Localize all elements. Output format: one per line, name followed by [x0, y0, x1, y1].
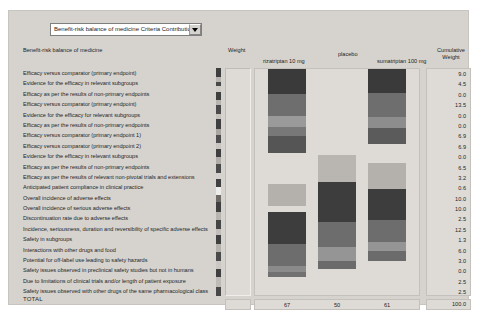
- criteria-row: Evidence for the efficacy in relevant su…: [23, 78, 213, 88]
- cumulative-weight-cell: 4.5: [427, 79, 470, 89]
- bar-segment: [268, 136, 306, 153]
- criteria-label-list: Efficacy versus comparator (primary endp…: [23, 68, 213, 297]
- weight-strip-segment: [216, 277, 221, 287]
- bar-segment: [318, 69, 356, 155]
- bar-segment: [268, 212, 306, 244]
- cumulative-weight-cell: 0.0: [427, 152, 470, 162]
- weight-strip-segment: [216, 195, 221, 202]
- cumulative-weight-cell: 6.9: [427, 142, 470, 152]
- weight-strip-segment: [216, 202, 221, 212]
- criteria-row: Efficacy versus comparator (primary endp…: [23, 99, 213, 109]
- criteria-contribution-chart: [254, 68, 420, 296]
- criteria-row: Due to limitations of clinical trials an…: [23, 276, 213, 286]
- criteria-row: Efficacy versus comparator (primary endp…: [23, 68, 213, 78]
- cumulative-weight-header-line2: Weight: [429, 54, 473, 61]
- weight-strip-segment: [216, 92, 221, 101]
- weight-strip-segment: [216, 157, 221, 164]
- weight-strip-segment: [216, 212, 221, 220]
- cumulative-weight-cell: 0.0: [427, 111, 470, 121]
- weight-strip-segment: [216, 252, 221, 261]
- bar3-header: sumatriptan 100 mg: [377, 58, 426, 64]
- criteria-row: Efficacy as per the results of non-prima…: [23, 89, 213, 99]
- bar3-total: 61: [372, 301, 402, 309]
- stacked-bar-placebo[interactable]: [318, 69, 356, 269]
- cumulative-weight-cell: 10.0: [427, 204, 470, 214]
- page-title: Benefit-risk balance of medicine: [23, 47, 102, 53]
- weight-strip-segment: [216, 287, 221, 296]
- criteria-row: Efficacy as per the results of non-prima…: [23, 162, 213, 172]
- weight-strip-segment: [216, 269, 221, 278]
- weight-strip-segment: [216, 187, 221, 195]
- criteria-row: Efficacy versus comparator (primary endp…: [23, 130, 213, 140]
- bar-segment: [268, 127, 306, 136]
- stacked-bar-rizatriptan[interactable]: [268, 69, 306, 277]
- cumulative-weight-header-line1: Cumulative: [437, 47, 465, 53]
- cumulative-weight-cell: 3.0: [427, 256, 470, 266]
- bar-segment: [268, 272, 306, 277]
- cumulative-weight-cell: 0.0: [427, 266, 470, 276]
- weight-strip-segment: [216, 235, 221, 244]
- cumulative-weight-cell: 0.0: [427, 121, 470, 131]
- cumulative-weight-cell: 9.0: [427, 69, 470, 79]
- cumulative-weight-header: Cumulative Weight: [429, 47, 473, 61]
- criteria-row: Interactions with other drugs and food: [23, 245, 213, 255]
- bar-segment: [268, 94, 306, 116]
- criteria-row: Efficacy versus comparator (primary endp…: [23, 141, 213, 151]
- bar-segment: [318, 155, 356, 182]
- cumulative-weight-total: 100.0: [426, 299, 471, 310]
- bar-segment: [318, 247, 356, 261]
- weight-strip-segment: [216, 68, 221, 77]
- cumulative-weight-cell: 2.5: [427, 287, 470, 297]
- bar-segment: [368, 128, 406, 144]
- cumulative-weight-cell: 6.5: [427, 163, 470, 173]
- cumulative-weight-cell: 3.2: [427, 173, 470, 183]
- criteria-row: Overall incidence of adverse effects: [23, 193, 213, 203]
- criteria-row: Evidence for the efficacy for relevant s…: [23, 110, 213, 120]
- cumulative-weight-cell: 10.0: [427, 194, 470, 204]
- bar1-total: 67: [272, 301, 302, 309]
- cumulative-weight-cell: 2.5: [427, 277, 470, 287]
- chevron-down-icon[interactable]: [189, 24, 201, 35]
- cumulative-weight-cell: 6.0: [427, 246, 470, 256]
- weight-strip-segment: [216, 105, 221, 114]
- cumulative-weight-cell: 2.5: [427, 214, 470, 224]
- bar-segment: [368, 69, 406, 93]
- criteria-row: Safety in subgroups: [23, 234, 213, 244]
- bar-segment: [318, 261, 356, 269]
- bar-segment: [368, 251, 406, 261]
- bar-segment: [368, 220, 406, 242]
- bar-segment: [368, 144, 406, 163]
- criteria-row: Safety issues observed in preclinical sa…: [23, 265, 213, 275]
- bar-segment: [318, 222, 356, 247]
- bar-segment: [368, 93, 406, 117]
- criteria-row: Efficacy as per the results of non-prima…: [23, 120, 213, 130]
- weight-strip-segment: [216, 229, 221, 236]
- criteria-row: Evidence for the efficacy in relevant su…: [23, 151, 213, 161]
- weight-strip-segment: [216, 179, 221, 188]
- criteria-contribution-dropdown[interactable]: Benefit-risk balance of medicine Criteri…: [50, 23, 202, 36]
- benefit-risk-panel: Benefit-risk balance of medicine Criteri…: [8, 10, 469, 305]
- cumulative-weight-cell: 12.5: [427, 225, 470, 235]
- weight-strip-segment: [216, 261, 221, 269]
- stacked-bar-sumatriptan[interactable]: [368, 69, 406, 261]
- bar-segment: [368, 189, 406, 220]
- weight-strip-segment: [216, 119, 221, 129]
- criteria-row: Potential for off-label use leading to s…: [23, 255, 213, 265]
- bar-totals-strip: 67 50 61: [254, 299, 420, 310]
- bar-segment: [368, 242, 406, 251]
- weight-bar-strip: [216, 68, 221, 296]
- cumulative-weight-cell: 13.5: [427, 100, 470, 110]
- bar-segment: [318, 182, 356, 222]
- bar-segment: [268, 153, 306, 184]
- bar-segment: [268, 184, 306, 206]
- weight-strip-segment: [216, 220, 221, 229]
- bar2-header: placebo: [338, 51, 358, 57]
- cumulative-weight-column: 9.04.50.013.50.00.06.96.90.06.53.20.610.…: [426, 68, 471, 296]
- bar-segment: [368, 163, 406, 189]
- bar-segment: [268, 69, 306, 94]
- cumulative-weight-cell: 1.3: [427, 235, 470, 245]
- dropdown-value: Benefit-risk balance of medicine Criteri…: [51, 24, 189, 35]
- bar1-header: rizatriptan 10 mg: [263, 58, 305, 64]
- bar-segment: [268, 244, 306, 266]
- criteria-row: Overall incidence of serious adverse eff…: [23, 203, 213, 213]
